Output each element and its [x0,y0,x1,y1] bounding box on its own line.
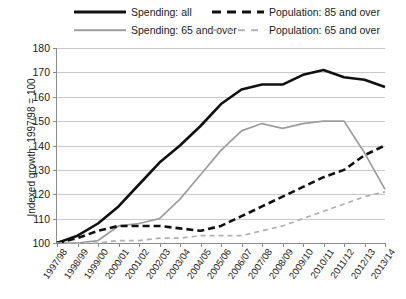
data-series-layer [57,48,385,243]
x-tick-mark-13 [324,243,325,247]
y-tick-label-150: 150 [32,116,50,126]
x-tick-mark-8 [221,243,222,247]
x-tick-mark-4 [139,243,140,247]
x-tick-mark-11 [283,243,284,247]
x-tick-mark-12 [303,243,304,247]
legend-swatch-solid-thick-icon [74,6,126,18]
x-tick-mark-9 [242,243,243,247]
x-tick-mark-5 [160,243,161,247]
x-tick-mark-16 [385,243,386,247]
legend-swatch-dash-thick-icon [212,6,264,18]
legend-item-population-85-over: Population: 85 and over [212,4,380,20]
series-line-spending-all [57,70,385,243]
indexed-growth-line-chart: Spending: all Population: 85 and over Sp… [0,0,406,299]
x-tick-mark-7 [201,243,202,247]
x-tick-mark-3 [119,243,120,247]
x-tick-mark-14 [344,243,345,247]
x-tick-mark-2 [98,243,99,247]
legend-label-population-85-over: Population: 85 and over [269,6,380,18]
x-tick-mark-6 [180,243,181,247]
plot-area: 100110120130140150160170180 1997/981998/… [57,48,385,243]
legend-item-spending-all: Spending: all [74,4,192,20]
y-tick-label-170: 170 [32,67,50,77]
series-line-population-85-and-over [57,146,385,244]
legend-label-spending-all: Spending: all [131,6,192,18]
y-tick-label-100: 100 [32,238,50,248]
y-tick-label-110: 110 [33,214,50,224]
legend-item-population-65-over: Population: 65 and over [212,22,380,38]
y-tick-label-120: 120 [32,189,50,199]
chart-legend: Spending: all Population: 85 and over Sp… [0,4,406,40]
legend-swatch-dash-thin-icon [212,24,264,36]
x-tick-mark-15 [365,243,366,247]
y-tick-label-130: 130 [32,165,50,175]
legend-swatch-solid-thin-icon [74,24,126,36]
y-tick-label-140: 140 [32,141,50,151]
x-tick-mark-10 [262,243,263,247]
legend-label-population-65-over: Population: 65 and over [269,24,380,36]
y-tick-label-180: 180 [32,43,50,53]
y-tick-label-160: 160 [32,92,50,102]
